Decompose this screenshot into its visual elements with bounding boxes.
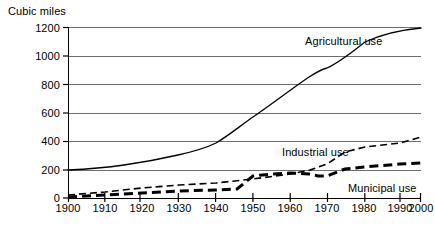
x-axis-ticks — [69, 193, 421, 202]
plot-area — [0, 0, 435, 228]
series-line-agricultural — [68, 28, 421, 170]
figure-caption-clipped — [10, 222, 430, 228]
water-use-line-chart: Cubic miles 1200 1000 800 600 400 200 0 … — [0, 0, 435, 228]
gridlines — [68, 28, 421, 171]
